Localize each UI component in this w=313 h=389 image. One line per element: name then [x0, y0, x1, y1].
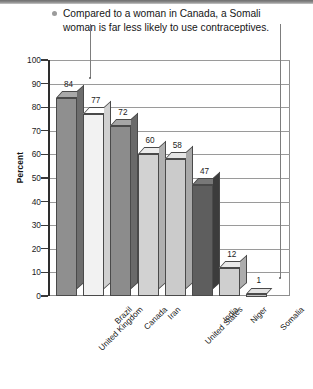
y-tick-label-70: 70	[15, 126, 41, 136]
y-tick-100	[41, 59, 48, 60]
y-tick-label-30: 30	[15, 220, 41, 230]
bar-side-face-niger	[240, 254, 247, 289]
y-tick-60	[41, 154, 48, 155]
bar-united-states[interactable]	[165, 152, 186, 296]
gridline-90	[48, 84, 290, 85]
gridline-100	[48, 60, 290, 61]
y-tick-80	[41, 107, 48, 108]
bar-value-label-somalia: 1	[248, 276, 269, 285]
y-axis-title: Percent	[16, 142, 25, 194]
bar-front-face-brazil	[83, 114, 104, 296]
y-tick-label-100: 100	[15, 55, 41, 65]
bar-value-label-brazil: 77	[85, 96, 106, 105]
leader-to-somalia	[280, 24, 281, 278]
x-label-niger: Niger	[249, 305, 269, 325]
y-axis-tick-labels: 0102030405060708090100	[10, 0, 41, 389]
bar-value-label-india: 47	[194, 167, 215, 176]
y-tick-label-0: 0	[15, 291, 41, 301]
y-tick-label-90: 90	[15, 79, 41, 89]
bar-front-face-united-states	[165, 159, 186, 296]
y-tick-0	[41, 295, 48, 296]
y-tick-label-20: 20	[15, 244, 41, 254]
bar-india[interactable]	[192, 178, 213, 296]
y-tick-label-10: 10	[15, 267, 41, 277]
y-tick-30	[41, 225, 48, 226]
bar-front-face-united-kingdom	[56, 98, 77, 296]
y-tick-50	[41, 177, 48, 178]
x-label-iran: Iran	[166, 305, 182, 321]
y-tick-10	[41, 272, 48, 273]
bar-front-face-niger	[219, 268, 240, 296]
y-tick-label-40: 40	[15, 197, 41, 207]
bar-chart: 0102030405060708090100 Percent 847772605…	[0, 0, 313, 389]
bar-value-label-niger: 12	[221, 250, 242, 259]
y-axis-line	[48, 60, 50, 296]
x-label-somalia: Somalia	[279, 305, 306, 332]
bar-value-label-united-kingdom: 84	[58, 80, 79, 89]
bar-value-label-canada: 72	[112, 108, 133, 117]
y-tick-40	[41, 201, 48, 202]
bar-brazil[interactable]	[83, 107, 104, 296]
bar-value-label-united-states: 58	[167, 141, 188, 150]
y-tick-90	[41, 83, 48, 84]
bar-front-face-india	[192, 185, 213, 296]
bar-iran[interactable]	[138, 147, 159, 296]
bar-value-label-iran: 60	[140, 136, 161, 145]
bar-front-face-somalia	[246, 294, 267, 297]
y-tick-label-80: 80	[15, 102, 41, 112]
bar-canada[interactable]	[110, 119, 131, 296]
bar-front-face-canada	[110, 126, 131, 296]
x-label-canada: Canada	[143, 305, 170, 332]
bar-front-face-iran	[138, 154, 159, 296]
y-tick-20	[41, 248, 48, 249]
bar-niger[interactable]	[219, 261, 240, 296]
leader-to-united-kingdom	[90, 24, 91, 78]
y-tick-70	[41, 130, 48, 131]
bar-united-kingdom[interactable]	[56, 91, 77, 296]
